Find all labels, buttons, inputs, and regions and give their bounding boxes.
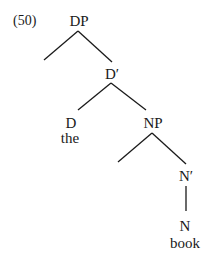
branch-dp-dbar [78,31,112,62]
word-the: the [61,131,79,146]
node-d: D [66,116,77,131]
node-np: NP [143,116,162,131]
branch-dbar-np [111,83,146,110]
node-d-bar: D′ [105,67,119,82]
branch-np-spec [118,133,152,162]
branch-dbar-d [78,83,111,110]
node-n-bar: N′ [179,169,193,184]
node-dp: DP [69,14,88,29]
word-book: book [170,236,200,251]
branch-np-nbar [152,133,186,164]
branch-dp-spec [44,31,78,60]
node-n: N [180,219,191,234]
tree-branches [0,0,205,265]
